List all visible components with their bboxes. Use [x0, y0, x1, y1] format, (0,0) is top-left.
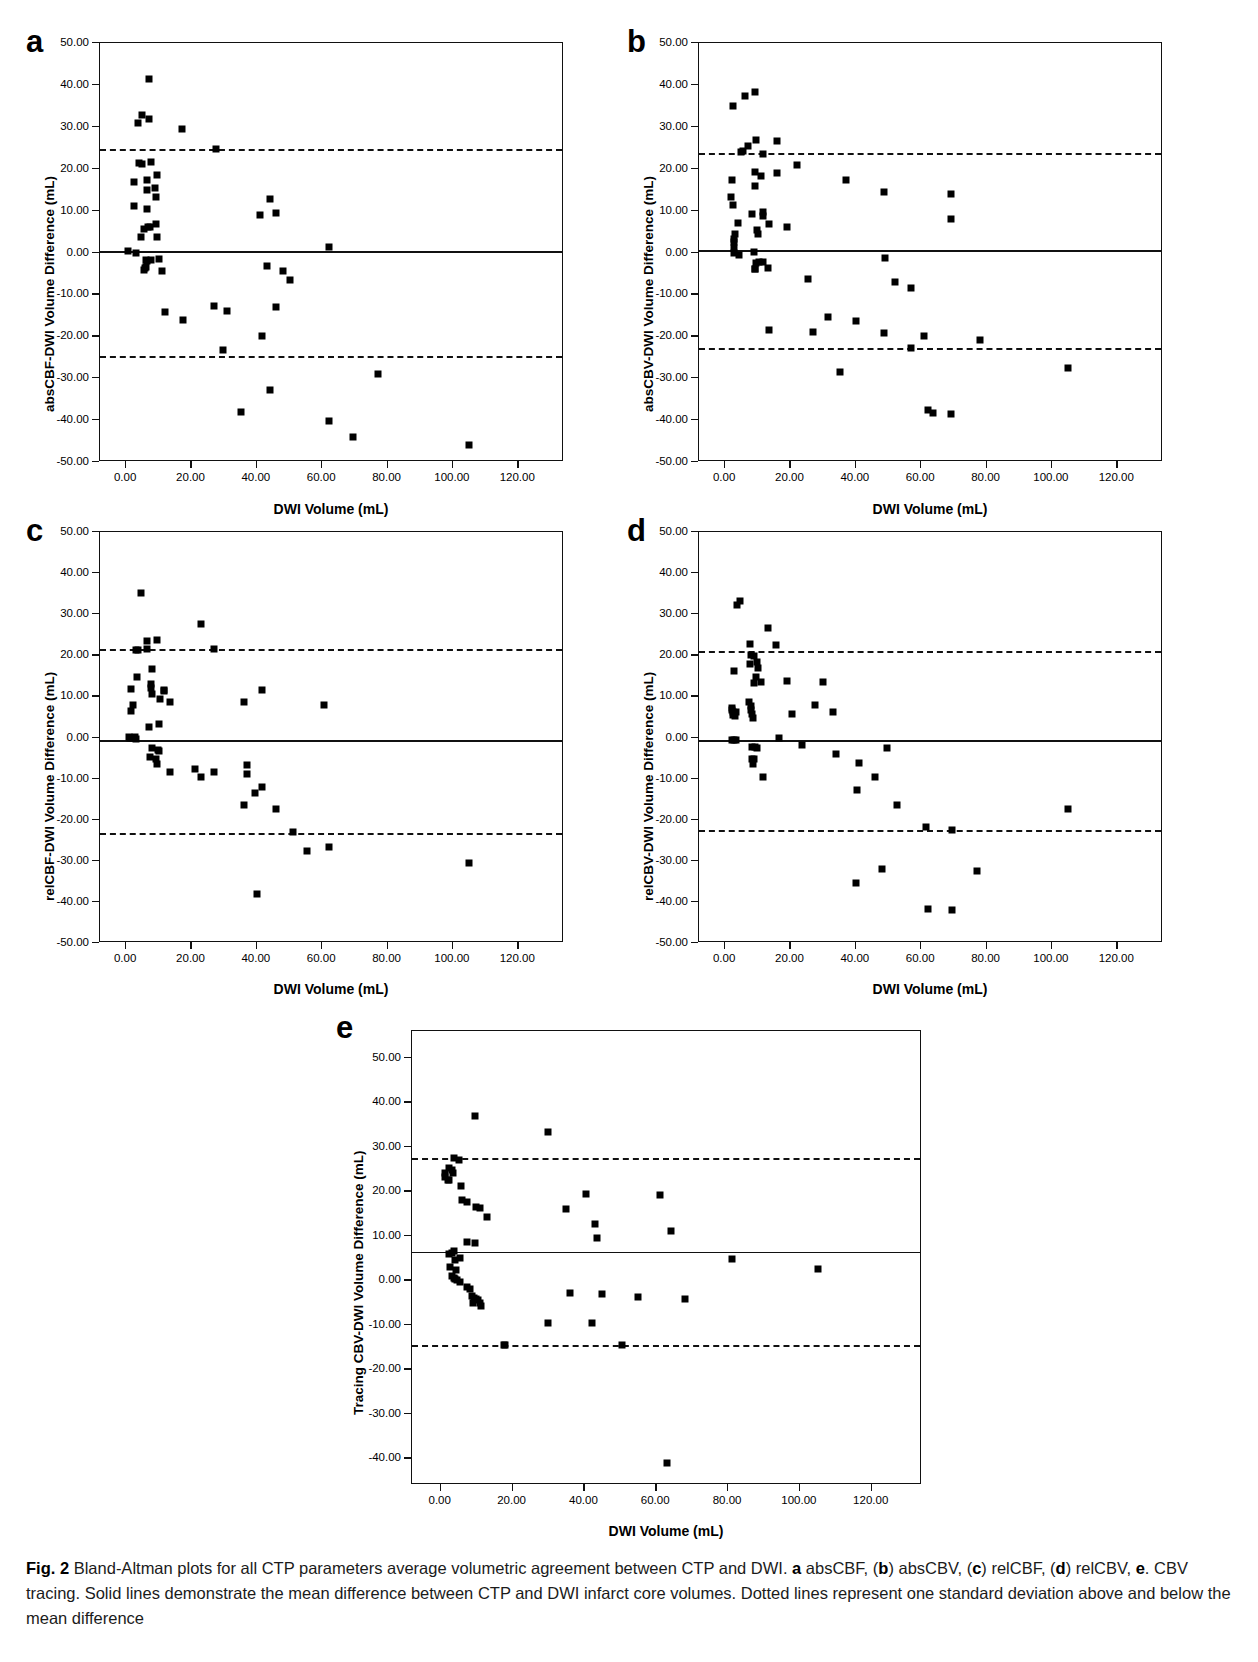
y-tick-mark: [691, 419, 698, 420]
data-point: [455, 1156, 462, 1163]
panel-d-points-layer: [699, 532, 1161, 941]
x-tick-mark: [256, 461, 257, 468]
sd-upper-line: [100, 649, 562, 651]
data-point: [198, 773, 205, 780]
x-tick-mark: [1116, 461, 1117, 468]
y-tick-label: -30.00: [31, 854, 89, 866]
data-point: [457, 1255, 464, 1262]
data-point: [449, 1169, 456, 1176]
data-point: [730, 102, 737, 109]
y-tick-label: 30.00: [31, 607, 89, 619]
panel-b-plot-area: [698, 42, 1162, 461]
y-tick-label: -40.00: [630, 895, 688, 907]
data-point: [1065, 365, 1072, 372]
data-point: [138, 160, 145, 167]
y-tick-mark: [92, 901, 99, 902]
data-point: [152, 194, 159, 201]
data-point: [820, 678, 827, 685]
data-point: [949, 826, 956, 833]
x-tick-mark: [190, 461, 191, 468]
x-tick-mark: [920, 942, 921, 949]
y-tick-mark: [691, 335, 698, 336]
panel-d-x-axis-title: DWI Volume (mL): [698, 981, 1162, 997]
x-tick-label: 100.00: [781, 1494, 816, 1506]
data-point: [789, 711, 796, 718]
x-tick-mark: [727, 1484, 728, 1491]
data-point: [154, 636, 161, 643]
y-tick-mark: [404, 1190, 411, 1191]
data-point: [977, 336, 984, 343]
y-tick-mark: [691, 126, 698, 127]
data-point: [325, 244, 332, 251]
data-point: [746, 660, 753, 667]
data-point: [592, 1220, 599, 1227]
data-point: [471, 1240, 478, 1247]
y-tick-label: -40.00: [630, 413, 688, 425]
data-point: [664, 1459, 671, 1466]
y-tick-label: 40.00: [31, 566, 89, 578]
y-tick-mark: [691, 42, 698, 43]
x-tick-mark: [256, 942, 257, 949]
x-tick-label: 100.00: [1033, 471, 1068, 483]
x-tick-mark: [986, 461, 987, 468]
x-tick-mark: [387, 461, 388, 468]
x-tick-mark: [1051, 942, 1052, 949]
y-tick-label: 50.00: [31, 36, 89, 48]
data-point: [132, 736, 139, 743]
y-tick-mark: [691, 377, 698, 378]
sd-lower-line: [699, 348, 1161, 350]
y-tick-label: 40.00: [343, 1095, 401, 1107]
data-point: [829, 709, 836, 716]
y-tick-label: -10.00: [630, 287, 688, 299]
data-point: [471, 1113, 478, 1120]
y-tick-mark: [92, 461, 99, 462]
data-point: [727, 194, 734, 201]
y-tick-mark: [404, 1057, 411, 1058]
data-point: [619, 1341, 626, 1348]
data-point: [131, 179, 138, 186]
x-tick-mark: [125, 942, 126, 949]
caption-part-2: absCBF, (: [801, 1559, 878, 1577]
data-point: [151, 185, 158, 192]
x-tick-label: 40.00: [840, 471, 869, 483]
y-tick-mark: [691, 613, 698, 614]
mean-difference-line: [699, 740, 1161, 742]
y-tick-mark: [691, 84, 698, 85]
y-tick-label: 0.00: [31, 246, 89, 258]
x-tick-label: 0.00: [114, 952, 136, 964]
data-point: [593, 1234, 600, 1241]
y-tick-label: -20.00: [31, 813, 89, 825]
y-tick-label: 50.00: [630, 36, 688, 48]
panel-a-plot-area: [99, 42, 563, 461]
panel-d-y-axis-title: relCBV-DWI Volume Difference (mL): [641, 672, 656, 901]
mean-difference-line: [412, 1252, 920, 1254]
data-point: [463, 1199, 470, 1206]
data-point: [764, 625, 771, 632]
data-point: [750, 680, 757, 687]
x-tick-label: 0.00: [713, 952, 735, 964]
sd-upper-line: [699, 651, 1161, 653]
y-tick-label: -40.00: [31, 413, 89, 425]
y-tick-mark: [92, 252, 99, 253]
x-tick-label: 0.00: [713, 471, 735, 483]
caption-ref-d: d: [1056, 1559, 1066, 1577]
data-point: [213, 145, 220, 152]
y-tick-mark: [404, 1101, 411, 1102]
sd-upper-line: [699, 153, 1161, 155]
panel-b-x-axis-title: DWI Volume (mL): [698, 501, 1162, 517]
y-tick-mark: [691, 737, 698, 738]
caption-part-5: ) relCBV,: [1066, 1559, 1136, 1577]
data-point: [325, 418, 332, 425]
y-tick-label: 50.00: [630, 525, 688, 537]
y-tick-label: 10.00: [343, 1229, 401, 1241]
data-point: [947, 411, 954, 418]
y-tick-mark: [92, 819, 99, 820]
data-point: [784, 223, 791, 230]
data-point: [737, 148, 744, 155]
data-point: [167, 699, 174, 706]
data-point: [146, 116, 153, 123]
figure-caption-label: Fig. 2: [26, 1559, 69, 1577]
x-tick-label: 60.00: [307, 471, 336, 483]
data-point: [908, 285, 915, 292]
y-tick-mark: [404, 1235, 411, 1236]
